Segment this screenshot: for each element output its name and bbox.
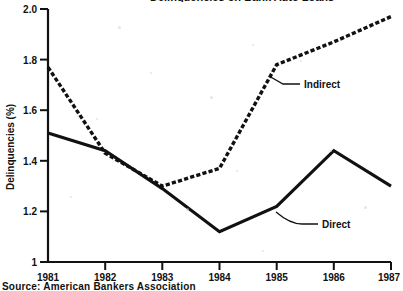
scan-artifact (252, 44, 254, 46)
annotation-label-direct: Direct (322, 219, 351, 230)
leader-line-direct (276, 212, 318, 224)
y-axis-ticks (40, 9, 48, 262)
chart-series-group (48, 17, 391, 232)
x-tick-label-1984: 1984 (208, 272, 231, 283)
y-tick-label-4: 1.2 (23, 206, 37, 217)
scan-artifact (364, 206, 367, 209)
annotation-label-indirect: Indirect (304, 79, 341, 90)
scan-artifact (96, 118, 98, 120)
figure-top-title-clipped: Delinquencies on Bank Auto Loans (150, 0, 334, 2)
figure-source-note-clipped: Source: American Bankers Association (2, 281, 196, 291)
y-axis-title: Delinquencies (%) (5, 104, 16, 190)
y-tick-label-1: 1.8 (23, 55, 37, 66)
y-tick-label-0: 2.0 (23, 4, 37, 15)
scan-artifact (330, 150, 332, 152)
scan-artifact (262, 250, 264, 252)
scan-artifact (236, 170, 238, 172)
leader-line-indirect (269, 76, 300, 84)
y-tick-label-3: 1.4 (23, 156, 37, 167)
scan-artifact (150, 72, 152, 74)
line-chart: 2.0 1.8 1.6 1.4 1.2 1 Delinquencies (%) … (0, 0, 403, 291)
x-axis-ticks (105, 262, 391, 270)
scan-artifact (70, 196, 72, 198)
annotation-leaders (269, 76, 318, 224)
scan-artifact (118, 26, 121, 29)
scan-artifact (300, 60, 302, 62)
x-tick-label-1987: 1987 (378, 272, 401, 283)
y-tick-label-2: 1.6 (23, 105, 37, 116)
scan-artifact (186, 208, 189, 211)
y-tick-label-5: 1 (31, 257, 37, 268)
series-line-indirect (48, 17, 391, 187)
figure-container: Delinquencies on Bank Auto Loans 2.0 1.8… (0, 0, 403, 291)
scan-artifact (210, 96, 213, 99)
y-axis-tick-labels: 2.0 1.8 1.6 1.4 1.2 1 (23, 4, 37, 268)
series-line-direct (48, 133, 391, 232)
x-tick-label-1985: 1985 (266, 272, 289, 283)
x-tick-label-1986: 1986 (323, 272, 346, 283)
